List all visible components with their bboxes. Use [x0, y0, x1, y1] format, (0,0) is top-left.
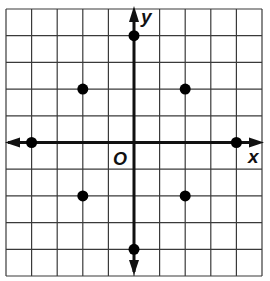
plotted-point	[129, 30, 140, 41]
plotted-point	[77, 84, 88, 95]
plotted-point	[180, 84, 191, 95]
y-axis-down-arrow-icon	[129, 260, 139, 275]
plotted-point	[77, 190, 88, 201]
axes	[5, 6, 264, 275]
origin-label: O	[113, 149, 127, 169]
x-axis-left-arrow-icon	[5, 138, 20, 148]
plotted-point	[26, 137, 37, 148]
plotted-point	[180, 190, 191, 201]
y-axis-label: y	[140, 6, 153, 27]
plotted-point	[129, 244, 140, 255]
x-axis-label: x	[247, 146, 260, 167]
coordinate-plane: x y O	[0, 0, 270, 281]
plotted-point	[231, 137, 242, 148]
